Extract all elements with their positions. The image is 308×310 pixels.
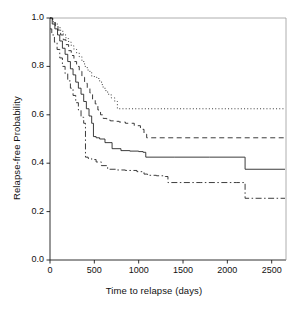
x-tick-label: 1500 [163,265,203,275]
x-tick-label: 0 [30,265,70,275]
figure-caption-strip [0,300,308,310]
y-tick-label: 0.8 [14,60,44,70]
y-tick-label: 0.4 [14,157,44,167]
plot-frame [50,18,286,260]
x-tick-label: 1000 [119,265,159,275]
x-tick-label: 500 [74,265,114,275]
series-dashdot [50,29,285,198]
y-tick-label: 0.2 [14,206,44,216]
y-tick-label: 0.6 [14,109,44,119]
tick-marks [47,18,272,264]
x-tick-label: 2000 [207,265,247,275]
y-tick-label: 0.0 [14,254,44,264]
series-dashed [50,18,285,138]
y-tick-label: 1.0 [14,12,44,22]
x-axis-label: Time to relapse (days) [0,285,308,296]
figure-container: Relapse-free Probability Time to relapse… [0,0,308,310]
kaplan-meier-plot [0,0,308,310]
x-tick-label: 2500 [252,265,292,275]
series-dotted [50,18,285,109]
series-lines [50,18,285,198]
